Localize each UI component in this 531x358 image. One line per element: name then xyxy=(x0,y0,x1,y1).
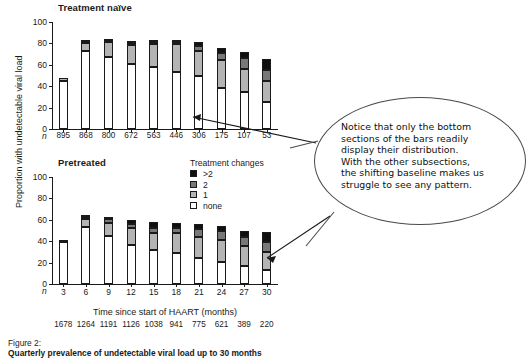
bar-segment xyxy=(104,236,113,284)
bar-segment xyxy=(217,231,226,240)
bar-segment xyxy=(149,44,158,66)
bottom-n-marker: n xyxy=(42,286,47,296)
bar-segment xyxy=(104,39,113,41)
bar-segment xyxy=(172,40,181,42)
bar-segment xyxy=(104,223,113,236)
bar-segment xyxy=(149,250,158,284)
bar-segment xyxy=(262,270,271,284)
y-tick-mark xyxy=(49,263,52,264)
bar-segment xyxy=(149,233,158,250)
bar-segment xyxy=(127,228,136,245)
bar xyxy=(127,177,136,284)
bar xyxy=(104,177,113,284)
y-tick-label: 80 xyxy=(25,39,47,47)
legend-swatch xyxy=(190,170,197,177)
y-tick-mark xyxy=(49,43,52,44)
bar-segment xyxy=(194,237,203,258)
bar-segment xyxy=(194,76,203,129)
y-tick-label: 100 xyxy=(25,18,47,26)
bar-segment xyxy=(104,57,113,129)
bar-segment xyxy=(59,78,68,81)
bar-segment xyxy=(149,67,158,129)
y-tick-mark xyxy=(49,129,52,130)
bar-segment xyxy=(172,253,181,284)
bar xyxy=(194,22,203,129)
y-tick-label: 100 xyxy=(25,173,47,181)
bar-segment xyxy=(149,42,158,44)
bar-segment xyxy=(149,40,158,43)
bar xyxy=(262,22,271,129)
caption-text: Quarterly prevalence of undetectable vir… xyxy=(8,348,262,358)
legend-swatch xyxy=(190,202,197,209)
bar-segment xyxy=(217,48,226,53)
bar xyxy=(59,22,68,129)
legend-title: Treatment changes xyxy=(190,158,264,168)
bar-segment xyxy=(59,242,68,284)
y-tick-mark xyxy=(49,284,52,285)
panel-title-pretreated: Pretreated xyxy=(58,157,106,168)
bar xyxy=(149,177,158,284)
bar-segment xyxy=(172,42,181,44)
bar-segment xyxy=(149,228,158,233)
bar-segment xyxy=(240,92,249,129)
bar-segment xyxy=(104,42,113,58)
bar-segment xyxy=(172,223,181,228)
bar-segment xyxy=(81,51,90,129)
bar-segment xyxy=(172,72,181,129)
bar-segment xyxy=(240,266,249,284)
bar-segment xyxy=(104,217,113,220)
panel-title-treatment-naive: Treatment naïve xyxy=(58,2,132,13)
legend-label: 1 xyxy=(203,190,208,200)
bar xyxy=(240,22,249,129)
bar-segment xyxy=(172,233,181,253)
bar-segment xyxy=(240,237,249,246)
top-n-marker: n xyxy=(42,131,47,141)
bar-segment xyxy=(127,41,136,43)
bar-segment xyxy=(104,41,113,43)
bar xyxy=(127,22,136,129)
bar-segment xyxy=(194,46,203,51)
bar-segment xyxy=(217,53,226,60)
bar xyxy=(104,22,113,129)
bar-segment xyxy=(127,224,136,228)
bar-segment xyxy=(240,231,249,237)
y-tick-mark xyxy=(49,220,52,221)
bar-segment xyxy=(217,226,226,231)
bar-segment xyxy=(127,245,136,284)
bar-segment xyxy=(194,258,203,284)
y-tick-label: 60 xyxy=(25,216,47,224)
bar xyxy=(149,22,158,129)
bar-segment xyxy=(127,220,136,223)
bar-segment xyxy=(81,42,90,44)
bar-segment xyxy=(240,69,249,93)
bar-segment xyxy=(172,228,181,233)
bar-segment xyxy=(262,59,271,70)
x-axis-title: Time since start of HAART (months) xyxy=(52,307,278,317)
callout-text: Notice that only the bottom sections of … xyxy=(341,121,505,191)
bar-segment xyxy=(240,58,249,68)
bar-segment xyxy=(240,52,249,58)
y-tick-mark xyxy=(49,177,52,178)
bar xyxy=(81,177,90,284)
bar-segment xyxy=(262,70,271,81)
caption-prefix: Figure 2: xyxy=(8,338,41,348)
bottom-y-axis xyxy=(52,177,53,284)
bar xyxy=(81,22,90,129)
bar-segment xyxy=(149,222,158,228)
bar xyxy=(217,22,226,129)
bar-segment xyxy=(59,240,68,243)
bar-segment xyxy=(194,51,203,76)
bar-segment xyxy=(262,81,271,102)
y-tick-mark xyxy=(49,241,52,242)
bar-segment xyxy=(127,45,136,64)
bar-segment xyxy=(262,242,271,252)
legend-swatch xyxy=(190,191,197,198)
y-tick-label: 60 xyxy=(25,61,47,69)
bar-segment xyxy=(262,102,271,129)
y-tick-mark xyxy=(49,65,52,66)
bar-segment xyxy=(59,81,68,129)
bar-segment xyxy=(172,44,181,72)
bar-segment xyxy=(127,64,136,129)
legend-label: none xyxy=(203,201,222,211)
